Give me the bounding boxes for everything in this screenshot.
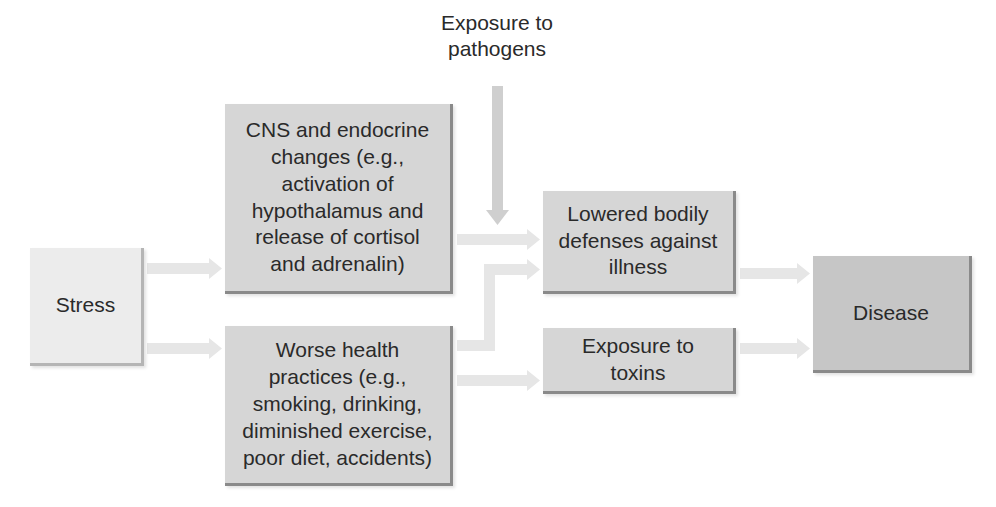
worse-health-line: smoking, drinking, [242,391,432,418]
cns-line: release of cortisol [246,224,429,251]
disease-box: Disease [813,256,972,373]
arrows-layer [0,0,996,507]
worse-health-line: poor diet, accidents) [242,445,432,472]
pathogens-line-2: pathogens [412,36,582,62]
arrow-worse-health-to-lowered-defenses [457,259,540,351]
cns-endocrine-text: CNS and endocrine changes (e.g., activat… [246,117,429,278]
arrow-worse-health-to-toxins [457,370,540,391]
lowered-defenses-box: Lowered bodily defenses against illness [543,191,736,294]
arrow-lowered-defenses-to-disease [740,263,810,284]
pathogens-line-1: Exposure to [412,10,582,36]
toxins-line: Exposure to [582,333,694,360]
worse-health-line: Worse health [242,337,432,364]
cns-line: changes (e.g., [246,144,429,171]
exposure-to-toxins-box: Exposure to toxins [543,328,736,394]
stress-label: Stress [56,292,116,319]
cns-line: activation of [246,171,429,198]
cns-line: CNS and endocrine [246,117,429,144]
toxins-line: toxins [582,360,694,387]
worse-health-line: practices (e.g., [242,364,432,391]
cns-line: hypothalamus and [246,198,429,225]
arrow-cns-to-lowered-defenses [457,229,540,250]
lowered-defenses-line: defenses against [559,228,718,255]
lowered-defenses-text: Lowered bodily defenses against illness [559,201,718,282]
cns-endocrine-box: CNS and endocrine changes (e.g., activat… [225,104,453,294]
lowered-defenses-line: illness [559,254,718,281]
worse-health-practices-box: Worse health practices (e.g., smoking, d… [225,326,453,486]
arrow-pathogens-to-lowered-defenses [486,86,509,225]
stress-box: Stress [30,248,144,366]
worse-health-text: Worse health practices (e.g., smoking, d… [242,337,432,471]
exposure-toxins-text: Exposure to toxins [582,333,694,387]
arrow-stress-to-worse-health [147,338,222,359]
disease-label: Disease [853,300,929,327]
worse-health-line: diminished exercise, [242,418,432,445]
arrow-toxins-to-disease [740,338,810,359]
lowered-defenses-line: Lowered bodily [559,201,718,228]
arrow-stress-to-cns [147,258,222,279]
exposure-to-pathogens-label: Exposure to pathogens [412,10,582,63]
cns-line: and adrenalin) [246,251,429,278]
